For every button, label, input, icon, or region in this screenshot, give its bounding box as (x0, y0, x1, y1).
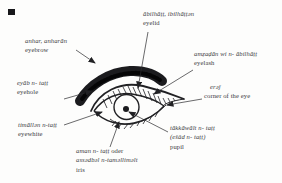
eyebrow-arrow (76, 50, 95, 63)
pupil-arrow (129, 112, 168, 132)
gloss-eyehole: eyehole (17, 87, 48, 96)
term2-pupil: (ešâd n- taṭṭ) (170, 132, 215, 141)
term-iris: aman n- taṭṭ (76, 147, 109, 154)
label-eyebrow: anhar, anharān eyebrow (25, 36, 67, 55)
term-corner: erəǰ (204, 82, 250, 91)
term2-iris: assədbəl n-taməlliməlt (76, 155, 138, 164)
term-eyelid: ābilhāṭṭ, ibilhāṭṭən (143, 9, 194, 18)
label-eyelid: ābilhāṭṭ, ibilhāṭṭən eyelid (143, 9, 194, 28)
label-eyelash: amẓaḍān wi n- ābilhāṭṭ eyelash (194, 49, 257, 68)
term-eyelash: amẓaḍān wi n- ābilhāṭṭ (194, 49, 257, 58)
term-eyebrow: anhar, anharān (25, 36, 67, 45)
label-pupil: tākkāwālt n- taṭṭ (ešâd n- taṭṭ) pupil (170, 123, 215, 151)
label-iris: aman n- taṭṭ oder assədbəl n-taməlliməlt… (76, 146, 138, 174)
eyelid-arrow (138, 32, 148, 88)
term-eyewhite: timāllən n-taṭṭ (18, 120, 57, 129)
conj-oder: oder (111, 147, 123, 154)
term-eyehole: eyāb n- taṭṭ (17, 78, 48, 87)
eyewhite-arrow (64, 112, 102, 125)
gloss-corner: corner of the eye (204, 91, 250, 100)
label-corner-of-eye: erəǰ corner of the eye (204, 82, 250, 101)
term-iris-line1: aman n- taṭṭ oder (76, 146, 138, 155)
iris-arrow (110, 122, 119, 147)
label-eyehole: eyāb n- taṭṭ eyehole (17, 78, 48, 97)
gloss-eyelid: eyelid (143, 18, 194, 27)
label-eyewhite: timāllən n-taṭṭ eyewhite (18, 120, 57, 139)
gloss-eyebrow: eyebrow (25, 45, 67, 54)
figure-eye-diagram: ābilhāṭṭ, ibilhāṭṭən eyelid anhar, anhar… (0, 0, 282, 183)
gloss-eyelash: eyelash (194, 58, 257, 67)
gloss-iris: iris (76, 165, 138, 174)
gloss-eyewhite: eyewhite (18, 129, 57, 138)
gloss-pupil: pupil (170, 142, 215, 151)
pupil-dot (123, 106, 129, 112)
term-pupil: tākkāwālt n- taṭṭ (170, 123, 215, 132)
